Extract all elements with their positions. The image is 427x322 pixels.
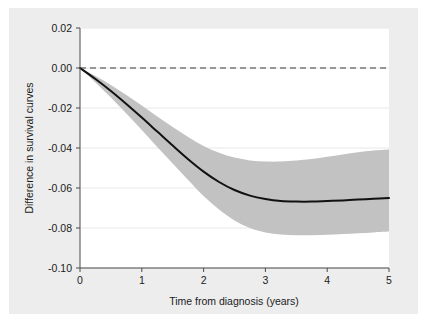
y-tick-label: -0.02 <box>48 102 72 114</box>
x-tick-label: 1 <box>139 274 145 286</box>
chart-canvas: 0.020.00-0.02-0.04-0.06-0.08-0.10 012345… <box>0 0 427 322</box>
y-axis-title: Difference in survival curves <box>23 82 35 213</box>
x-axis-title: Time from diagnosis (years) <box>169 295 299 307</box>
x-tick-label: 0 <box>77 274 83 286</box>
y-tick-label: -0.06 <box>48 182 72 194</box>
y-tick-label: -0.08 <box>48 222 72 234</box>
figure-root: 0.020.00-0.02-0.04-0.06-0.08-0.10 012345… <box>0 0 427 322</box>
y-axis-ticks: 0.020.00-0.02-0.04-0.06-0.08-0.10 <box>48 22 80 274</box>
x-tick-label: 4 <box>324 274 330 286</box>
y-tick-label: 0.02 <box>52 22 73 34</box>
y-tick-label: 0.00 <box>52 62 73 74</box>
x-tick-label: 3 <box>262 274 268 286</box>
y-tick-label: -0.04 <box>48 142 72 154</box>
x-tick-label: 2 <box>201 274 207 286</box>
x-tick-label: 5 <box>386 274 392 286</box>
y-tick-label: -0.10 <box>48 262 72 274</box>
x-axis-ticks: 012345 <box>77 268 392 286</box>
